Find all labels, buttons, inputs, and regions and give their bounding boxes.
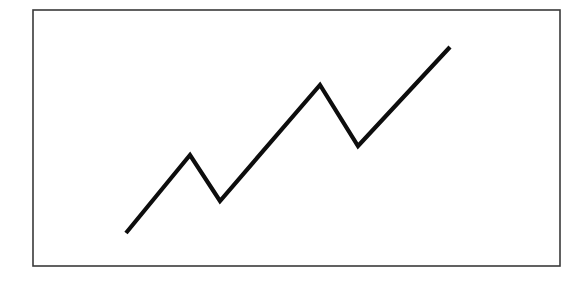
- figure-container: [0, 0, 588, 285]
- chart-border-rect: [33, 10, 560, 266]
- line-chart-graphic: [0, 0, 588, 285]
